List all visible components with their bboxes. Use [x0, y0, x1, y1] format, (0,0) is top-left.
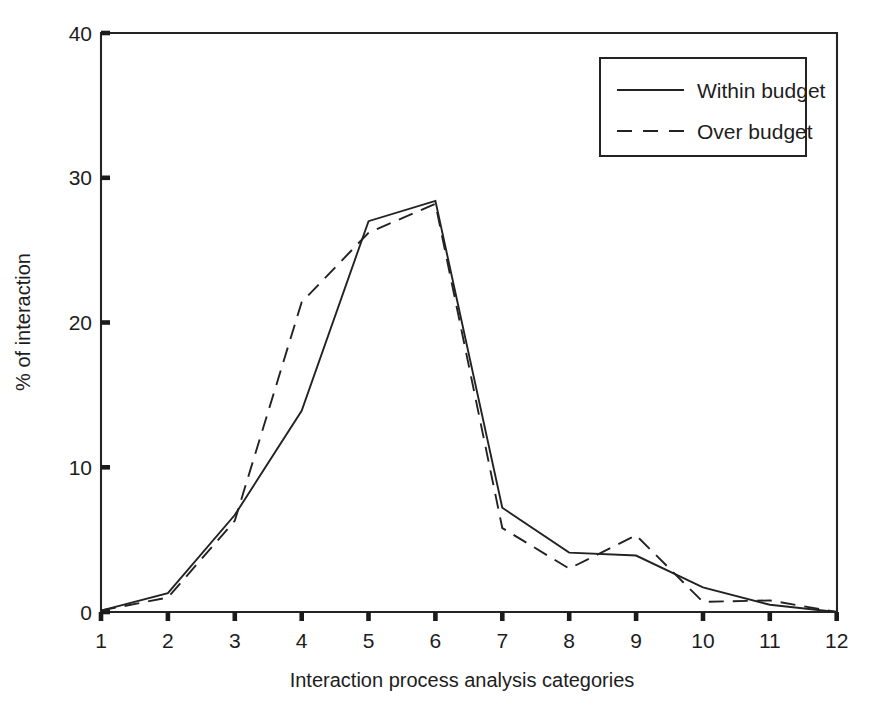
- y-tick-label-20: 20: [69, 311, 92, 334]
- x-tick-label-1: 1: [95, 629, 107, 652]
- y-tick-label-40: 40: [69, 22, 92, 45]
- x-axis-tick-labels: 1 2 3 4 5 6 7 8 9 10 11 12: [95, 629, 848, 652]
- chart-figure: 0 10 20 30 40 1 2 3 4 5: [0, 0, 876, 706]
- series-line-within-budget: [101, 201, 837, 612]
- series-line-over-budget: [101, 204, 837, 612]
- y-tick-label-10: 10: [69, 456, 92, 479]
- line-chart: 0 10 20 30 40 1 2 3 4 5: [0, 0, 876, 706]
- x-axis-ticks: [101, 612, 837, 621]
- x-tick-label-9: 9: [630, 629, 642, 652]
- x-tick-label-3: 3: [229, 629, 241, 652]
- x-tick-label-12: 12: [825, 629, 848, 652]
- x-tick-label-5: 5: [363, 629, 375, 652]
- y-axis-tick-labels: 0 10 20 30 40: [69, 22, 92, 624]
- x-tick-label-6: 6: [430, 629, 442, 652]
- x-tick-label-10: 10: [691, 629, 714, 652]
- legend-label-within-budget: Within budget: [697, 79, 826, 102]
- x-tick-label-4: 4: [296, 629, 308, 652]
- chart-legend: Within budget Over budget: [600, 58, 826, 156]
- x-tick-label-8: 8: [563, 629, 575, 652]
- x-axis-title: Interaction process analysis categories: [290, 669, 635, 691]
- y-axis-title: % of interaction: [12, 253, 34, 391]
- x-tick-label-2: 2: [162, 629, 174, 652]
- y-axis-ticks: [101, 33, 110, 612]
- x-tick-label-11: 11: [759, 629, 781, 652]
- legend-label-over-budget: Over budget: [697, 120, 813, 143]
- y-tick-label-30: 30: [69, 166, 92, 189]
- series-group: [101, 201, 837, 612]
- y-tick-label-0: 0: [80, 601, 92, 624]
- x-tick-label-7: 7: [496, 629, 508, 652]
